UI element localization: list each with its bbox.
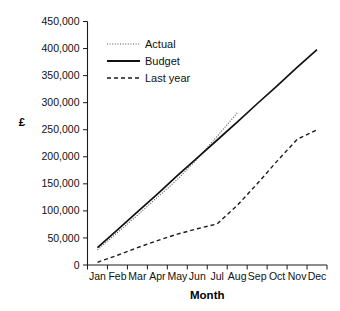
y-tick-label: 350,000 xyxy=(42,69,80,81)
x-tick-label: Aug xyxy=(228,270,247,282)
y-tick-label: 450,000 xyxy=(42,15,80,27)
series-line-budget xyxy=(97,50,317,248)
axis-frame xyxy=(88,22,328,266)
y-tick-label: 150,000 xyxy=(42,177,80,189)
x-axis-title: Month xyxy=(190,289,224,301)
x-tick-label: Dec xyxy=(308,270,327,282)
x-tick-label: Feb xyxy=(108,270,126,282)
y-tick-label: 400,000 xyxy=(42,42,80,54)
x-tick-label: Nov xyxy=(288,270,307,282)
y-tick-label: 300,000 xyxy=(42,96,80,108)
line-chart: 050,000100,000150,000200,000250,000300,0… xyxy=(0,0,340,311)
y-tick-label: 100,000 xyxy=(42,204,80,216)
legend-label-budget: Budget xyxy=(145,55,180,67)
x-tick-label: May xyxy=(167,270,188,282)
y-axis-tick-marks xyxy=(83,22,88,266)
x-tick-label: Sep xyxy=(248,270,267,282)
y-axis-tick-labels: 050,000100,000150,000200,000250,000300,0… xyxy=(42,15,80,271)
y-tick-label: 250,000 xyxy=(42,123,80,135)
chart-canvas: 050,000100,000150,000200,000250,000300,0… xyxy=(0,0,340,311)
chart-legend: ActualBudgetLast year xyxy=(107,38,191,84)
x-tick-label: Apr xyxy=(149,270,166,282)
y-tick-label: 0 xyxy=(74,259,80,271)
x-tick-label: Oct xyxy=(269,270,285,282)
data-series-group xyxy=(97,50,317,263)
y-tick-label: 50,000 xyxy=(47,232,79,244)
x-tick-label: Mar xyxy=(128,270,147,282)
x-axis-tick-labels: JanFebMarAprMayJunJulAugSepOctNovDec xyxy=(89,270,326,282)
x-tick-label: Jul xyxy=(211,270,224,282)
x-axis-tick-marks xyxy=(88,265,328,270)
legend-label-actual: Actual xyxy=(145,38,176,50)
x-tick-label: Jan xyxy=(89,270,106,282)
y-axis-title: £ xyxy=(19,116,26,128)
x-tick-label: Jun xyxy=(189,270,206,282)
y-tick-label: 200,000 xyxy=(42,150,80,162)
legend-label-last-year: Last year xyxy=(145,72,191,84)
